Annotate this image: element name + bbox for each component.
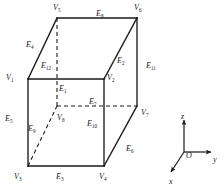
edge-label-e3: E3 xyxy=(56,173,63,181)
axis-label-x: x xyxy=(169,177,173,186)
edge-label-e5: E5 xyxy=(5,115,12,123)
vertex-label-v8: V8 xyxy=(57,114,64,122)
edge-e9-line xyxy=(28,106,57,166)
edge-label-e1: E1 xyxy=(59,85,66,93)
vertex-label-v2: V2 xyxy=(107,74,114,82)
edge-label-e12: E12 xyxy=(41,62,51,70)
edge-e2-line xyxy=(104,18,137,79)
cube-hidden-edges xyxy=(28,18,137,166)
edge-label-e2: E2 xyxy=(117,57,124,65)
axis-label-y: y xyxy=(213,155,217,164)
edge-label-e8: E8 xyxy=(96,10,103,18)
cube-diagram-canvas xyxy=(0,0,224,190)
vertex-label-v5: V5 xyxy=(53,4,60,12)
cube-visible-edges xyxy=(28,18,137,166)
axis-origin-label: O xyxy=(186,151,192,160)
axis-label-z: z xyxy=(181,112,184,121)
cube-labeling-figure: V1 V2 V3 V4 V5 V6 V7 V8 E1 E2 E3 E4 E5 E… xyxy=(0,0,224,190)
edge-e6-line xyxy=(104,106,137,166)
edge-label-e6: E6 xyxy=(126,145,133,153)
edge-label-e4: E4 xyxy=(26,41,33,49)
coordinate-axes xyxy=(171,120,211,172)
vertex-label-v4: V4 xyxy=(99,173,106,181)
edge-label-e10: E10 xyxy=(87,120,97,128)
edge-label-e7: E7 xyxy=(89,98,96,106)
axis-x-line xyxy=(171,152,184,172)
edge-label-e11: E11 xyxy=(146,62,156,70)
vertex-label-v3: V3 xyxy=(14,173,21,181)
vertex-label-v7: V7 xyxy=(141,109,148,117)
vertex-label-v6: V6 xyxy=(134,4,141,12)
edge-label-e9: E9 xyxy=(28,125,35,133)
vertex-label-v1: V1 xyxy=(6,74,13,82)
